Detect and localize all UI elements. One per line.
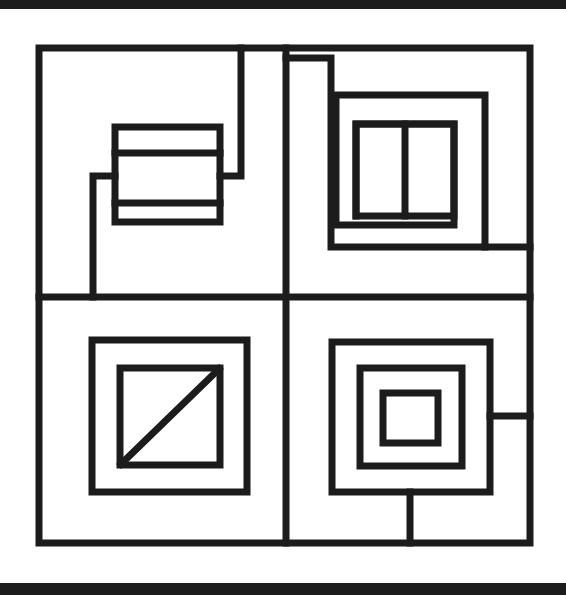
top-scan-edge-band: [0, 0, 566, 9]
bottom-scan-edge-band: [0, 583, 566, 595]
line-drawing-artwork: [0, 0, 566, 595]
drawing-canvas: [0, 0, 566, 595]
